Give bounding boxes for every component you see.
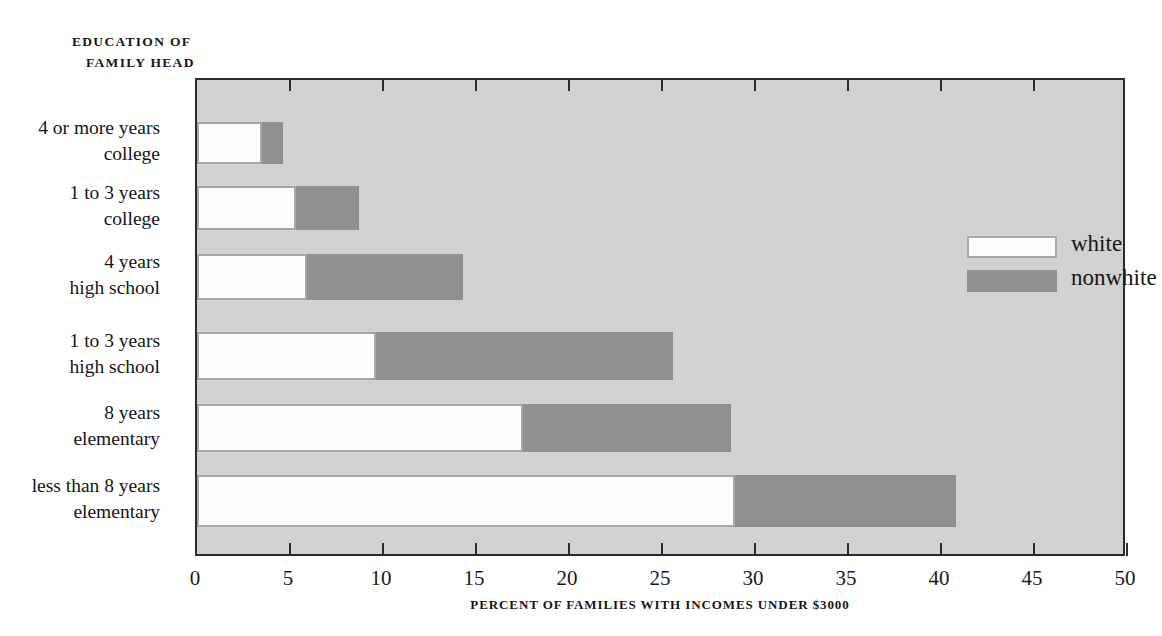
x-axis-tick-top [568,78,570,91]
legend-swatch [967,236,1057,258]
x-axis-tick-top [382,78,384,91]
category-label-line-2: college [0,141,160,167]
bar-segment-white [197,475,735,527]
legend-label: nonwhite [1071,265,1157,291]
x-axis-tick-bottom [847,543,849,556]
y-axis-title-line-1: EDUCATION OF [72,34,191,49]
category-label-line-2: college [0,206,160,232]
x-axis-tick-top [754,78,756,91]
x-axis-tick-top [289,78,291,91]
category-label: 4 yearshigh school [0,249,160,300]
bar-segment-white [197,332,376,380]
x-axis-tick-label: 10 [371,566,392,591]
x-axis-tick-bottom [475,543,477,556]
bar-segment-white [197,186,296,230]
x-axis-tick-label: 40 [929,566,950,591]
category-label: 1 to 3 yearshigh school [0,328,160,379]
x-axis-tick-bottom [1126,543,1128,556]
bar-segment-white [197,122,262,164]
x-axis-tick-label: 45 [1022,566,1043,591]
x-axis-tick-bottom [382,543,384,556]
legend-label: white [1071,231,1122,257]
bar-segment-white [197,404,523,452]
x-axis-tick-bottom [289,543,291,556]
x-axis-tick-label: 30 [743,566,764,591]
x-axis-tick-label: 5 [283,566,294,591]
plot-area: whitenonwhite [195,78,1125,556]
category-label-line-2: high school [0,275,160,301]
x-axis-title: PERCENT OF FAMILIES WITH INCOMES UNDER $… [195,597,1125,613]
x-axis-tick-top [847,78,849,91]
category-label: less than 8 yearselementary [0,473,160,524]
x-axis-tick-bottom [568,543,570,556]
category-label: 1 to 3 yearscollege [0,180,160,231]
x-axis-tick-label: 0 [190,566,201,591]
category-label-line-2: elementary [0,426,160,452]
category-label-line-1: less than 8 years [0,473,160,499]
chart-container: EDUCATION OF FAMILY HEAD 4 or more years… [0,0,1162,636]
category-label-line-2: high school [0,354,160,380]
x-axis-tick-top [475,78,477,91]
x-axis-tick-label: 25 [650,566,671,591]
x-axis-tick-label: 15 [464,566,485,591]
x-axis-tick-bottom [661,543,663,556]
x-axis-tick-bottom [940,543,942,556]
x-axis-tick-top [661,78,663,91]
category-label-line-1: 1 to 3 years [0,328,160,354]
x-axis-tick-label: 35 [836,566,857,591]
x-axis-tick-top [1033,78,1035,91]
category-label-line-1: 8 years [0,400,160,426]
y-axis-title-line-2: FAMILY HEAD [72,53,272,74]
x-axis-tick-label: 50 [1115,566,1136,591]
category-label-line-1: 4 or more years [0,115,160,141]
bar-row [197,404,1127,452]
bar-row [197,475,1127,527]
category-label-line-1: 4 years [0,249,160,275]
x-axis-tick-bottom [1033,543,1035,556]
category-label: 4 or more yearscollege [0,115,160,166]
bar-row [197,186,1127,230]
bar-row [197,122,1127,164]
category-label-line-1: 1 to 3 years [0,180,160,206]
x-axis-tick-bottom [754,543,756,556]
x-axis-tick-label: 20 [557,566,578,591]
category-label-line-2: elementary [0,499,160,525]
y-axis-title: EDUCATION OF FAMILY HEAD [72,32,272,74]
bar-row [197,332,1127,380]
category-label: 8 yearselementary [0,400,160,451]
x-axis-tick-top [940,78,942,91]
bar-segment-white [197,254,307,300]
legend-swatch [967,270,1057,292]
